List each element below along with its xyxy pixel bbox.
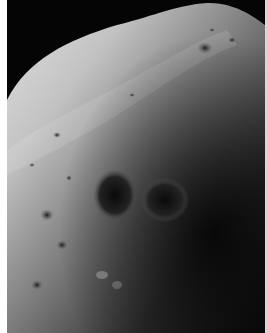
moon-surface-image (7, 0, 265, 333)
photo-frame: Cratered moon surface against black spac… (7, 0, 265, 333)
right-border (265, 0, 267, 333)
